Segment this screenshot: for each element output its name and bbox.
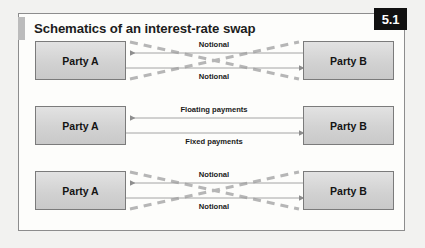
figure-number-badge: 5.1 — [374, 8, 407, 30]
row-3-party-b-box[interactable]: Party B — [303, 171, 394, 210]
row-1-party-b-label: Party B — [330, 55, 367, 67]
row-3-party-a-box[interactable]: Party A — [35, 171, 126, 210]
title-accent-bar — [18, 17, 25, 40]
row-3-party-b-label: Party B — [330, 185, 367, 197]
row-3-party-a-label: Party A — [62, 185, 98, 197]
row-2-edge-upper-label: Floating payments — [180, 105, 247, 114]
diagram-canvas: Party A Party B Notional Notional Party … — [18, 13, 405, 231]
row-1-party-a-box[interactable]: Party A — [35, 41, 126, 80]
row-1-party-b-box[interactable]: Party B — [303, 41, 394, 80]
row-1-edge-upper-label: Notional — [199, 40, 229, 49]
row-1-edge-lower-label: Notional — [199, 72, 229, 81]
row-2-party-b-box[interactable]: Party B — [303, 106, 394, 145]
row-2-party-a-label: Party A — [62, 120, 98, 132]
row-2-edge-lower-label: Fixed payments — [185, 137, 242, 146]
row-3-edge-lower-label: Notional — [199, 202, 229, 211]
row-2-party-a-box[interactable]: Party A — [35, 106, 126, 145]
row-1-party-a-label: Party A — [62, 55, 98, 67]
row-3-edge-upper-label: Notional — [199, 170, 229, 179]
figure-title-row: Schematics of an interest-rate swap — [18, 16, 256, 40]
row-2-party-b-label: Party B — [330, 120, 367, 132]
page-title: Schematics of an interest-rate swap — [34, 21, 256, 36]
